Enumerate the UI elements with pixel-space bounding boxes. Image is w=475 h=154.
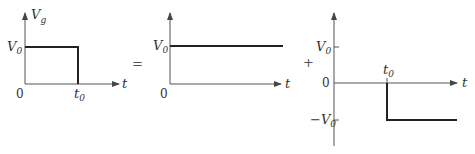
- x-axis-label: t: [462, 75, 468, 90]
- pulse-signal: [25, 47, 78, 84]
- level-label: V0: [153, 38, 168, 55]
- y-axis-label: Vg: [31, 7, 46, 25]
- plus-sign: +: [303, 55, 314, 70]
- pos-level-label: V0: [316, 39, 331, 56]
- panel-delayed-step-down: V0 0 −V0 t0 t: [310, 13, 468, 146]
- negative-step-signal: [387, 83, 457, 120]
- x-axis-label: t: [285, 76, 291, 91]
- equals-sign: =: [132, 56, 143, 71]
- x-axis-label: t: [122, 76, 128, 91]
- origin-label: 0: [322, 76, 330, 90]
- level-label: V0: [7, 39, 22, 56]
- neg-level-label: −V0: [310, 112, 336, 129]
- origin-label: 0: [160, 87, 168, 101]
- pulse-decomposition-diagram: Vg V0 0 t0 t = V0 0 t + V0 0 −V0 t0 t: [0, 0, 475, 154]
- time-label: t0: [383, 62, 394, 79]
- origin-label: 0: [16, 87, 24, 101]
- panel-step-up: V0 0 t: [153, 13, 291, 101]
- time-label: t0: [74, 86, 85, 103]
- panel-pulse: Vg V0 0 t0 t: [7, 7, 128, 103]
